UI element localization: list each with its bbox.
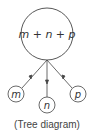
arrow-m-icon — [29, 75, 32, 79]
root-node: m + n + p — [18, 8, 75, 60]
child-label-n: n — [44, 100, 50, 111]
child-node-m: m — [8, 86, 24, 102]
edge-p — [47, 60, 72, 88]
arrow-n-icon — [46, 80, 49, 84]
edge-m — [22, 60, 47, 88]
root-label: m + n + p — [18, 28, 75, 41]
child-label-m: m — [11, 89, 21, 100]
child-label-p: p — [74, 89, 81, 100]
child-node-p: p — [70, 86, 86, 102]
arrow-p-icon — [62, 75, 65, 79]
tree-diagram: m + n + p m n p (Tree diagram) — [0, 0, 92, 132]
diagram-caption: (Tree diagram) — [14, 119, 80, 130]
child-node-n: n — [39, 97, 55, 113]
edges — [22, 60, 72, 97]
